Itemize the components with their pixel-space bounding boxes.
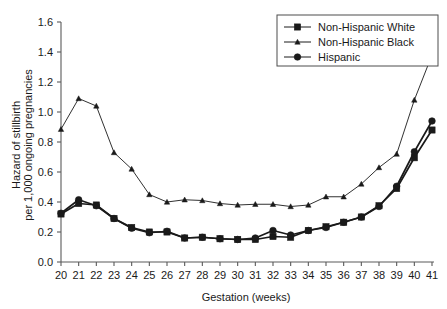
data-point-marker: [376, 203, 383, 210]
x-tick-label: 20: [55, 269, 67, 281]
legend-label: Non-Hispanic White: [318, 21, 415, 33]
y-tick-label: 1.4: [38, 46, 53, 58]
y-axis-label-line2: per 1,000 ongoing pregnancies: [22, 69, 34, 221]
data-point-marker: [128, 225, 135, 232]
series-line: [61, 55, 432, 207]
x-tick-label: 36: [338, 269, 350, 281]
x-tick-label: 38: [373, 269, 385, 281]
x-tick-label: 32: [267, 269, 279, 281]
data-point-marker: [270, 233, 276, 239]
y-tick-label: 0.0: [38, 256, 53, 268]
data-point-marker: [58, 127, 63, 132]
data-point-marker: [287, 232, 294, 239]
data-point-marker: [146, 229, 153, 236]
x-axis-tick-labels: 2021222324252627282930313233343536373839…: [55, 262, 438, 281]
y-axis-tick-labels: 0.00.20.40.60.81.01.21.41.6: [38, 16, 61, 268]
x-tick-label: 34: [302, 269, 314, 281]
legend-label: Non-Hispanic Black: [318, 36, 414, 48]
y-tick-label: 0.4: [38, 196, 53, 208]
x-tick-label: 21: [73, 269, 85, 281]
data-point-marker: [234, 236, 241, 243]
y-tick-label: 1.2: [38, 76, 53, 88]
x-tick-label: 28: [196, 269, 208, 281]
x-tick-label: 27: [179, 269, 191, 281]
data-point-marker: [323, 224, 330, 231]
x-tick-label: 26: [161, 269, 173, 281]
data-point-marker: [93, 202, 100, 209]
data-series-group: [58, 52, 436, 243]
data-point-marker: [411, 148, 418, 155]
series-line: [61, 130, 432, 240]
data-point-marker: [412, 97, 417, 102]
x-tick-label: 37: [355, 269, 367, 281]
data-point-marker: [394, 151, 399, 156]
x-tick-label: 30: [232, 269, 244, 281]
data-point-marker: [181, 235, 188, 242]
x-tick-label: 23: [108, 269, 120, 281]
data-point-marker: [429, 118, 436, 125]
y-tick-label: 0.6: [38, 166, 53, 178]
y-tick-label: 1.6: [38, 16, 53, 28]
data-point-marker: [429, 127, 435, 133]
hazard-of-stillbirth-line-chart: 0.00.20.40.60.81.01.21.41.6 202122232425…: [0, 0, 447, 309]
x-tick-label: 31: [249, 269, 261, 281]
x-tick-label: 25: [143, 269, 155, 281]
data-point-marker: [270, 227, 277, 234]
x-tick-label: 33: [285, 269, 297, 281]
data-point-marker: [217, 235, 224, 242]
legend-marker-circle-icon: [294, 54, 301, 61]
data-point-marker: [393, 183, 400, 190]
data-point-marker: [76, 96, 81, 101]
x-tick-label: 22: [90, 269, 102, 281]
legend-marker-square-icon: [294, 24, 300, 30]
series-non-hispanic-white: [58, 127, 435, 243]
data-point-marker: [305, 227, 312, 234]
data-point-marker: [75, 196, 82, 203]
x-tick-label: 39: [391, 269, 403, 281]
data-point-marker: [252, 235, 259, 242]
data-point-marker: [164, 228, 171, 235]
data-point-marker: [111, 150, 116, 155]
data-point-marker: [340, 219, 347, 226]
x-tick-label: 29: [214, 269, 226, 281]
y-tick-label: 1.0: [38, 106, 53, 118]
y-axis-label-line1: Hazard of stillbirth: [10, 101, 22, 189]
y-tick-label: 0.2: [38, 226, 53, 238]
series-hispanic: [58, 118, 436, 243]
x-tick-label: 41: [426, 269, 438, 281]
data-point-marker: [58, 210, 65, 217]
y-tick-label: 0.8: [38, 136, 53, 148]
chart-figure: 0.00.20.40.60.81.01.21.41.6 202122232425…: [0, 0, 447, 309]
x-tick-label: 35: [320, 269, 332, 281]
legend-label: Hispanic: [318, 51, 361, 63]
series-non-hispanic-black: [58, 52, 434, 208]
x-tick-label: 24: [126, 269, 138, 281]
x-axis-label: Gestation (weeks): [202, 291, 291, 303]
data-point-marker: [199, 234, 206, 241]
x-tick-label: 40: [408, 269, 420, 281]
data-point-marker: [94, 103, 99, 108]
data-point-marker: [111, 215, 118, 222]
data-point-marker: [358, 214, 365, 221]
chart-legend: Non-Hispanic WhiteNon-Hispanic BlackHisp…: [277, 15, 438, 66]
